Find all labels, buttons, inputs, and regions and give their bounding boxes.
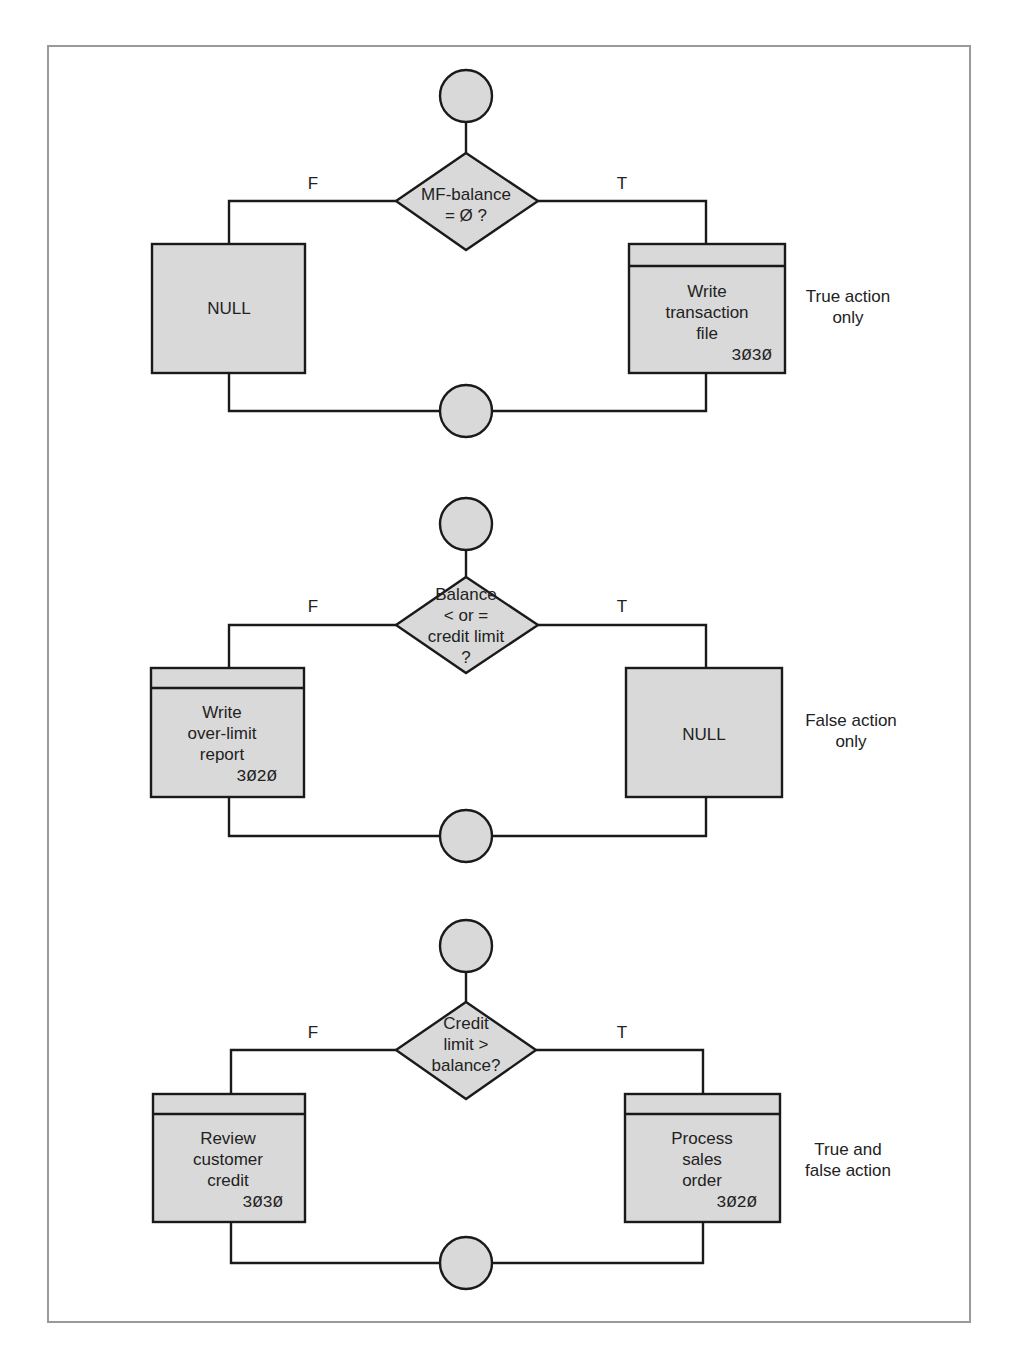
exit-connector-icon — [440, 810, 492, 862]
false-branch-label: F — [308, 597, 318, 616]
decision-text-line: credit limit — [428, 627, 505, 646]
box-text: Process — [671, 1129, 732, 1148]
box-text: sales — [682, 1150, 722, 1169]
box-text: report — [200, 745, 245, 764]
decision-text-line: Credit — [443, 1014, 489, 1033]
section-note: false action — [805, 1161, 891, 1180]
box-text: file — [696, 324, 718, 343]
box-text: transaction — [665, 303, 748, 322]
flowchart-diagram: MF-balance = Ø ? F T NULL Write transact… — [0, 0, 1013, 1360]
section-note: True and — [814, 1140, 881, 1159]
section-3: Credit limit > balance? F T Review custo… — [153, 920, 891, 1289]
section-note: True action — [806, 287, 890, 306]
true-branch-label: T — [617, 1023, 627, 1042]
decision-text-line: balance? — [431, 1056, 500, 1075]
module-code: 3Ø3Ø — [242, 1193, 283, 1212]
box-text: order — [682, 1171, 722, 1190]
exit-connector-icon — [440, 385, 492, 437]
box-text: over-limit — [188, 724, 257, 743]
entry-connector-icon — [440, 70, 492, 122]
box-text: Write — [687, 282, 726, 301]
section-note: only — [835, 732, 867, 751]
box-text: credit — [207, 1171, 249, 1190]
section-1: MF-balance = Ø ? F T NULL Write transact… — [152, 70, 890, 437]
decision-text-line: < or = — [444, 606, 488, 625]
section-2: Balance < or = credit limit ? F T Write … — [151, 498, 897, 862]
section-note: only — [832, 308, 864, 327]
module-code: 3Ø3Ø — [731, 346, 772, 365]
module-code: 3Ø2Ø — [716, 1193, 757, 1212]
box-text: Review — [200, 1129, 256, 1148]
box-text: NULL — [207, 299, 250, 318]
decision-text-line: = Ø ? — [445, 206, 487, 225]
false-branch-label: F — [308, 1023, 318, 1042]
entry-connector-icon — [440, 498, 492, 550]
true-branch-label: T — [617, 174, 627, 193]
box-text: NULL — [682, 725, 725, 744]
module-code: 3Ø2Ø — [236, 767, 277, 786]
true-branch-label: T — [617, 597, 627, 616]
section-note: False action — [805, 711, 897, 730]
box-text: customer — [193, 1150, 263, 1169]
box-text: Write — [202, 703, 241, 722]
false-branch-label: F — [308, 174, 318, 193]
decision-text-line: MF-balance — [421, 185, 511, 204]
decision-text-line: Balance — [435, 585, 496, 604]
decision-text-line: limit > — [444, 1035, 489, 1054]
entry-connector-icon — [440, 920, 492, 972]
decision-text-line: ? — [461, 648, 470, 667]
exit-connector-icon — [440, 1237, 492, 1289]
